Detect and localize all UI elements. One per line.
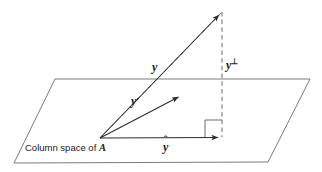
diagram-canvas [0,0,322,172]
vector-y-hat [100,138,218,139]
column-space-plane [14,79,310,163]
projection-diagram: y y′ y⊥ ˆy Column space of A [0,0,322,172]
